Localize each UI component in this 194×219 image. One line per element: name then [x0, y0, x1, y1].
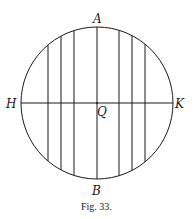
label-K: K — [175, 98, 184, 110]
label-B: B — [92, 185, 101, 197]
label-Q: Q — [97, 106, 107, 118]
center-point-Q — [96, 102, 98, 104]
figure-caption: Fig. 33. — [81, 202, 112, 212]
label-A: A — [93, 13, 102, 25]
label-H: H — [6, 98, 16, 110]
